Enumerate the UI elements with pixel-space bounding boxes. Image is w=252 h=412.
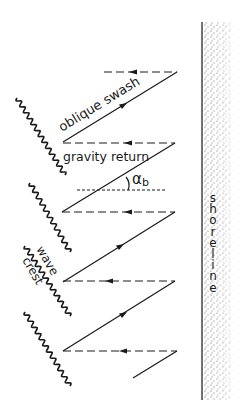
angle-label: αb	[132, 170, 149, 189]
arrow-left-icon	[119, 349, 127, 354]
angle-arc-icon	[126, 177, 129, 190]
arrow-up-right-icon	[119, 103, 127, 109]
shoreline-label: shoreline	[209, 191, 217, 295]
arrow-up-right-icon	[119, 312, 127, 318]
shoreline-letter: e	[209, 281, 216, 295]
oblique-swash-line-5	[133, 351, 177, 378]
oblique-swash-label: oblique swash	[56, 73, 143, 134]
wave-crest-line-1	[16, 98, 66, 175]
arrow-left-icon	[124, 210, 132, 215]
arrow-left-icon	[105, 279, 113, 284]
gravity-return-label: gravity return	[63, 149, 149, 164]
wave-crest-line-2	[29, 183, 71, 252]
wave-crests	[16, 98, 71, 386]
oblique-swash-line-4	[63, 281, 175, 351]
arrow-up-right-icon	[116, 244, 124, 250]
wave-crest-line-4	[24, 312, 71, 386]
arrow-left-icon	[124, 141, 132, 146]
swash-zone-diagram: shoreline oblique swash gravity return	[0, 0, 252, 412]
shoreline-strip	[202, 22, 240, 400]
